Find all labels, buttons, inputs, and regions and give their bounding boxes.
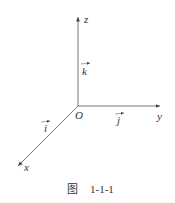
x-axis: [18, 106, 78, 166]
z-axis-label: z: [84, 14, 88, 25]
x-axis-label: x: [24, 162, 29, 173]
figure-caption-number: 1-1-1: [90, 184, 114, 195]
unit-vector-k: k: [82, 66, 87, 77]
k-vector-arrow: [81, 63, 90, 64]
figure-caption-prefix: 图: [67, 184, 78, 195]
origin-label: O: [75, 110, 83, 121]
unit-vector-j: j: [117, 115, 120, 126]
unit-vector-i: i: [44, 123, 47, 134]
y-axis-label: y: [157, 111, 162, 122]
